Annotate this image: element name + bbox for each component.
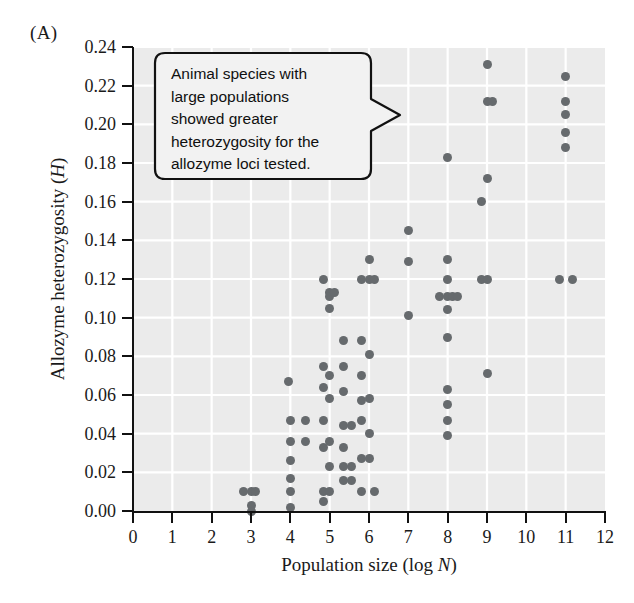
y-tick-label: 0.12 — [48, 270, 116, 288]
y-tick-mark — [122, 394, 133, 396]
data-point — [357, 487, 366, 496]
y-tick-mark — [122, 85, 133, 87]
y-tick-mark — [122, 278, 133, 280]
x-tick-label: 1 — [157, 527, 187, 547]
y-tick-label: 0.18 — [48, 154, 116, 172]
x-tick-mark — [407, 512, 409, 523]
x-tick-label: 11 — [551, 527, 581, 547]
data-point — [477, 197, 486, 206]
data-point — [286, 487, 295, 496]
x-tick-mark — [486, 512, 488, 523]
x-tick-label: 2 — [197, 527, 227, 547]
data-point — [453, 292, 462, 301]
x-tick-label: 5 — [315, 527, 345, 547]
data-point — [286, 437, 295, 446]
data-point — [319, 362, 328, 371]
data-point — [443, 416, 452, 425]
figure-panel-a: (A) Allozyme heterozygosity (H) Populati… — [0, 0, 634, 603]
data-point — [365, 394, 374, 403]
data-point — [404, 257, 413, 266]
data-point — [301, 437, 310, 446]
callout-text: Animal species withlarge populationsshow… — [171, 63, 363, 176]
y-tick-mark — [122, 471, 133, 473]
data-point — [301, 416, 310, 425]
data-point — [286, 456, 295, 465]
x-tick-mark — [329, 512, 331, 523]
y-tick-mark — [122, 162, 133, 164]
x-tick-mark — [565, 512, 567, 523]
y-tick-mark — [122, 46, 133, 48]
data-point — [561, 128, 570, 137]
y-tick-mark — [122, 239, 133, 241]
data-point — [347, 462, 356, 471]
data-point — [339, 387, 348, 396]
data-point — [286, 416, 295, 425]
data-point — [404, 311, 413, 320]
x-tick-mark — [250, 512, 252, 523]
x-tick-label: 7 — [393, 527, 423, 547]
data-point — [365, 255, 374, 264]
data-point — [357, 416, 366, 425]
data-point — [325, 437, 334, 446]
y-tick-mark — [122, 433, 133, 435]
data-point — [365, 429, 374, 438]
y-tick-mark — [122, 201, 133, 203]
data-point — [319, 383, 328, 392]
x-tick-mark — [289, 512, 291, 523]
x-tick-mark — [604, 512, 606, 523]
x-tick-mark — [171, 512, 173, 523]
callout-text-line: allozyme loci tested. — [171, 153, 363, 176]
y-tick-label: 0.22 — [48, 77, 116, 95]
data-point — [284, 377, 293, 386]
x-tick-mark — [525, 512, 527, 523]
y-tick-label: 0.00 — [48, 502, 116, 520]
callout-annotation: Animal species withlarge populationsshow… — [153, 51, 373, 175]
y-tick-label: 0.14 — [48, 231, 116, 249]
data-point — [339, 362, 348, 371]
data-point — [357, 371, 366, 380]
x-tick-mark — [132, 512, 134, 523]
y-tick-mark — [122, 317, 133, 319]
x-tick-label: 8 — [433, 527, 463, 547]
data-point — [443, 275, 452, 284]
x-tick-label: 6 — [354, 527, 384, 547]
data-point — [483, 369, 492, 378]
x-tick-label: 0 — [118, 527, 148, 547]
data-point — [443, 333, 452, 342]
callout-text-line: showed greater — [171, 108, 363, 131]
data-point — [435, 292, 444, 301]
y-tick-label: 0.02 — [48, 463, 116, 481]
data-point — [561, 72, 570, 81]
y-tick-label: 0.20 — [48, 115, 116, 133]
data-point — [488, 97, 497, 106]
data-point — [347, 476, 356, 485]
x-tick-label: 12 — [590, 527, 620, 547]
x-axis-title-text: Population size (log — [281, 554, 438, 575]
data-point — [483, 174, 492, 183]
data-point — [286, 474, 295, 483]
data-point — [319, 275, 328, 284]
callout-text-line: large populations — [171, 86, 363, 109]
data-point — [319, 416, 328, 425]
data-point — [365, 454, 374, 463]
callout-text-line: Animal species with — [171, 63, 363, 86]
y-tick-label: 0.06 — [48, 386, 116, 404]
y-tick-label: 0.04 — [48, 425, 116, 443]
y-axis-line — [132, 47, 134, 513]
x-tick-label: 9 — [472, 527, 502, 547]
x-tick-label: 10 — [511, 527, 541, 547]
x-tick-mark — [368, 512, 370, 523]
y-tick-mark — [122, 355, 133, 357]
data-point — [339, 443, 348, 452]
data-point — [443, 153, 452, 162]
y-tick-label: 0.08 — [48, 347, 116, 365]
y-tick-label: 0.10 — [48, 309, 116, 327]
data-point — [483, 275, 492, 284]
x-tick-label: 4 — [275, 527, 305, 547]
data-point — [555, 275, 564, 284]
x-axis-title-tail: ) — [451, 554, 457, 575]
y-tick-mark — [122, 123, 133, 125]
data-point — [404, 226, 413, 235]
x-axis-title-italic: N — [438, 554, 451, 575]
data-point — [325, 304, 334, 313]
